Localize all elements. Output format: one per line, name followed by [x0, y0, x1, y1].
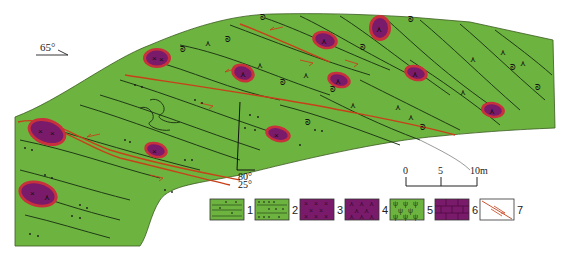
svg-text:×: × — [304, 200, 308, 207]
svg-text:×: × — [324, 213, 328, 220]
svg-text:×: × — [304, 213, 308, 220]
svg-text:⋏: ⋏ — [359, 213, 364, 220]
svg-text:⋏: ⋏ — [369, 200, 374, 207]
svg-text:3: 3 — [337, 204, 343, 216]
svg-text:⋏: ⋏ — [321, 37, 327, 46]
legend-item-6: 6 — [435, 199, 478, 220]
svg-text:⋏: ⋏ — [395, 103, 401, 112]
strike-label: 65° — [40, 41, 55, 53]
svg-text:1: 1 — [247, 204, 253, 216]
svg-text:⋏: ⋏ — [257, 61, 263, 70]
svg-text:×: × — [274, 131, 279, 140]
geologic-map: ×× ⋏ ⋏ ⋏ ⋏ ⋏ ⋏ × × ×× ×⋏ ⋏⋏ ⋏⋏ ⋏⋏ ⋏⋏ ⋏⋏ … — [0, 0, 571, 257]
svg-text:×: × — [50, 129, 55, 138]
svg-text:ᘐ: ᘐ — [305, 118, 311, 127]
legend-item-2: 2 — [255, 199, 298, 220]
dip-lower-label: 25° — [238, 179, 252, 190]
svg-text:ψ: ψ — [413, 200, 418, 208]
strike-indicator: 65° — [36, 41, 68, 55]
svg-text:⋏: ⋏ — [489, 107, 495, 116]
svg-text:ᘐ: ᘐ — [535, 83, 541, 92]
svg-text:⋏: ⋏ — [44, 193, 50, 202]
svg-text:⋏: ⋏ — [369, 213, 374, 220]
svg-text:×: × — [324, 200, 328, 207]
svg-text:ψ: ψ — [393, 213, 398, 221]
svg-text:⋏: ⋏ — [412, 70, 418, 79]
svg-text:⋏: ⋏ — [205, 39, 211, 48]
scale-tick-5: 5 — [438, 165, 443, 176]
svg-text:⋏: ⋏ — [349, 213, 354, 220]
legend-item-1: 1 — [210, 199, 253, 220]
svg-text:⋏: ⋏ — [303, 71, 309, 80]
svg-text:6: 6 — [472, 204, 478, 216]
svg-text:⋏: ⋏ — [359, 200, 364, 207]
svg-text:2: 2 — [292, 204, 298, 216]
svg-text:4: 4 — [382, 204, 388, 216]
svg-text:×: × — [152, 54, 157, 63]
svg-text:⋏: ⋏ — [240, 70, 246, 79]
svg-text:⋏: ⋏ — [408, 113, 414, 122]
svg-text:ψ: ψ — [413, 213, 418, 221]
svg-text:×: × — [152, 147, 157, 156]
svg-text:ᘐ: ᘐ — [225, 35, 231, 44]
svg-text:⋏: ⋏ — [500, 48, 506, 57]
svg-text:×: × — [159, 55, 164, 64]
legend: 1 2 ××× ×× ××× 3 ⋏⋏⋏ — [210, 199, 523, 221]
svg-text:⋏: ⋏ — [350, 101, 356, 110]
svg-text:ᘐ: ᘐ — [360, 43, 366, 52]
svg-text:×: × — [38, 127, 43, 136]
svg-text:ψ: ψ — [403, 213, 408, 221]
svg-text:ᘐ: ᘐ — [330, 85, 336, 94]
svg-text:ᘐ: ᘐ — [420, 123, 426, 132]
svg-text:5: 5 — [427, 204, 433, 216]
svg-text:×: × — [309, 207, 313, 214]
svg-text:ᘐ: ᘐ — [280, 78, 286, 87]
svg-text:⋏: ⋏ — [376, 25, 382, 34]
legend-item-3: ××× ×× ××× 3 — [300, 199, 343, 220]
svg-text:×: × — [30, 189, 35, 198]
svg-text:⋏: ⋏ — [460, 88, 466, 97]
legend-item-7: 7 — [480, 199, 523, 220]
svg-text:×: × — [319, 207, 323, 214]
svg-text:⋏: ⋏ — [349, 200, 354, 207]
scale-tick-10m: 10m — [470, 165, 488, 176]
scale-bar: 0 5 10m — [403, 165, 488, 186]
svg-text:ᘐ: ᘐ — [510, 63, 516, 72]
svg-text:ᘐ: ᘐ — [260, 13, 266, 22]
svg-text:ᘐ: ᘐ — [408, 15, 414, 24]
legend-item-5: ψψψ ψψ ψψψ 5 — [390, 199, 433, 221]
svg-text:×: × — [314, 213, 318, 220]
legend-item-4: ⋏⋏⋏ ⋏⋏ ⋏⋏⋏ 4 — [345, 199, 388, 220]
scale-tick-0: 0 — [403, 165, 408, 176]
svg-text:⋏: ⋏ — [470, 55, 476, 64]
svg-text:×: × — [314, 200, 318, 207]
svg-text:7: 7 — [517, 204, 523, 216]
svg-text:ᘐ: ᘐ — [180, 45, 186, 54]
svg-text:⋏: ⋏ — [520, 59, 526, 68]
